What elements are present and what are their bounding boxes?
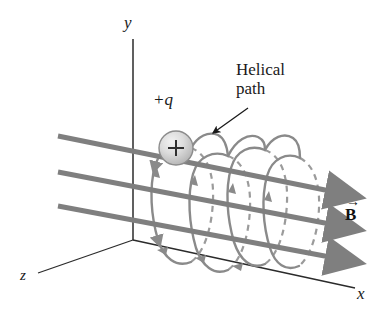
charged-particle bbox=[159, 131, 193, 165]
z-axis-label: z bbox=[20, 268, 26, 283]
y-axis-label: y bbox=[124, 14, 132, 31]
helical-path-label-line1: Helical bbox=[236, 60, 332, 79]
helical-path-label-line2: path bbox=[236, 79, 332, 98]
magnetic-field-vector-label: → B bbox=[345, 198, 359, 223]
magnetic-field-symbol: B bbox=[345, 205, 356, 224]
figure-canvas bbox=[0, 0, 378, 316]
z-axis bbox=[38, 240, 133, 273]
charge-label: +q bbox=[153, 90, 173, 110]
helical-path-label: Helical path bbox=[236, 60, 332, 98]
field-line-3 bbox=[58, 206, 330, 257]
x-axis-label: x bbox=[357, 285, 365, 302]
physics-figure: y x z +q Helical path → B bbox=[0, 0, 378, 316]
helical-path-leader-arrow bbox=[213, 108, 248, 133]
